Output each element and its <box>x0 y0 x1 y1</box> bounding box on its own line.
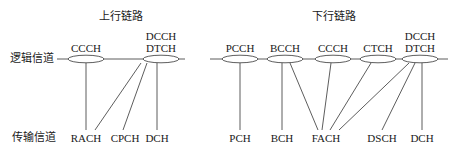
dl-fach-label: FACH <box>312 132 341 144</box>
dl-ccch-ellipse <box>315 55 351 63</box>
ul-dcch-label: DCCH <box>146 30 177 42</box>
logical-channel-label: 逻辑信道 <box>10 53 54 65</box>
dl-dch-label: DCH <box>410 132 433 144</box>
ul-dtch-label: DTCH <box>146 42 176 54</box>
dl-bcch-label: BCCH <box>270 42 300 54</box>
ul-ccch-ellipse <box>68 55 104 63</box>
dl-ctch-label: CTCH <box>363 42 392 54</box>
dl-bch-label: BCH <box>271 132 294 144</box>
dl-dtch-label: DTCH <box>405 42 435 54</box>
map-dl-ccch-fach <box>322 63 331 130</box>
dl-dcch-label: DCCH <box>405 30 436 42</box>
dl-ctch-ellipse <box>360 55 396 63</box>
ul-cpch-label: CPCH <box>111 132 140 144</box>
dl-dcch-dtch-ellipse <box>402 55 438 63</box>
dl-dsch-label: DSCH <box>367 132 396 144</box>
map-dl-ctch-fach <box>330 63 371 130</box>
ul-dch-label: DCH <box>145 132 168 144</box>
transport-channel-label: 传输信道 <box>12 132 56 144</box>
uplink-title: 上行链路 <box>99 11 143 23</box>
ul-ccch-label: CCCH <box>71 42 101 54</box>
map-ul-dcch-rach <box>95 63 141 130</box>
dl-pcch-label: PCCH <box>226 42 255 54</box>
ul-dcch-dtch-ellipse <box>143 55 179 63</box>
downlink-title: 下行链路 <box>312 11 356 23</box>
ul-rach-label: RACH <box>71 132 102 144</box>
dl-pch-label: PCH <box>229 132 250 144</box>
map-ul-dcch-cpch <box>123 63 147 130</box>
dl-bcch-ellipse <box>267 55 303 63</box>
dl-pcch-ellipse <box>222 55 258 63</box>
dl-ccch-label: CCCH <box>318 42 348 54</box>
map-dl-bcch-fach <box>290 63 318 130</box>
